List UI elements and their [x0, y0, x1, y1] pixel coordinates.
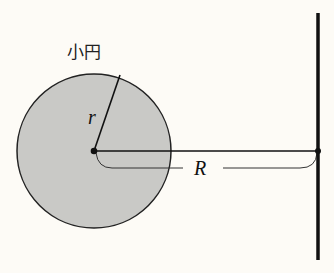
wall-point	[315, 148, 321, 154]
diagram-canvas: 小円 r R	[0, 0, 334, 273]
radius-label: r	[88, 106, 96, 128]
small-circle-label: 小円	[67, 42, 101, 62]
center-point	[91, 148, 98, 155]
distance-label: R	[193, 157, 206, 179]
